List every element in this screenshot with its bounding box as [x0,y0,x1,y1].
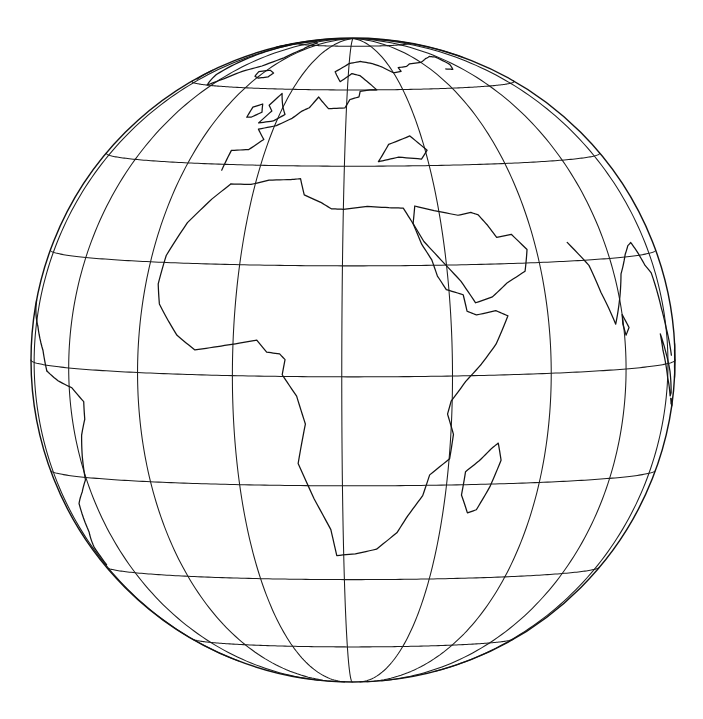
globe-canvas [0,0,703,719]
globe-figure [0,0,703,719]
figure-background [0,0,703,719]
